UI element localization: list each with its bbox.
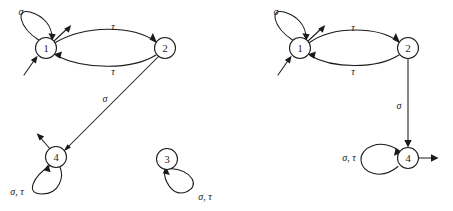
state-node-2-right[interactable]: 2 [398,38,419,59]
right-automaton: 1 2 4 σ τ τ σ σ, τ [274,6,439,175]
state-label: 2 [405,43,410,54]
edge-label-self-loop-state-1: σ [19,6,25,17]
transition-self-loop-state-4 [361,144,400,174]
transition-2-to-1 [56,55,156,66]
state-node-1-left[interactable]: 1 [36,38,57,59]
arrowhead-incoming-stub-state-1 [31,56,38,64]
arrowhead-outgoing-stub-state-1 [64,25,71,33]
edge-label-self-loop-state-4: σ, τ [10,186,24,197]
state-node-4-left[interactable]: 4 [46,147,67,168]
state-label: 3 [164,154,169,165]
state-label: 4 [53,152,59,163]
state-node-3-left[interactable]: 3 [157,149,178,170]
transition-self-loop-state-1 [21,11,52,40]
state-label: 4 [405,153,411,164]
state-label: 2 [162,43,167,54]
state-label: 1 [43,43,48,54]
state-node-1-right[interactable]: 1 [290,38,311,59]
arrowhead-2-to-4 [404,140,411,148]
diagram-canvas: 1 2 4 3 σ τ τ σ σ, τ σ, τ [0,0,453,211]
edge-label-1-to-2: τ [351,22,355,33]
edge-label-2-to-1: τ [351,66,355,77]
arrowhead-outgoing-stub-state-1 [318,25,325,33]
arrowhead-outgoing-stub-state-4 [37,133,45,140]
edge-label-1-to-2: τ [111,21,115,32]
edge-label-self-loop-state-4: σ, τ [342,152,356,163]
transition-self-loop-state-3 [164,169,193,193]
edge-label-2-to-1: τ [111,66,115,77]
state-node-2-left[interactable]: 2 [155,38,176,59]
state-node-4-right[interactable]: 4 [398,148,419,169]
state-label: 1 [297,43,302,54]
transition-1-to-2 [56,29,156,42]
transition-self-loop-state-1 [275,11,306,40]
automata-figure: 1 2 4 3 σ τ τ σ σ, τ σ, τ [0,0,453,211]
edge-label-2-to-4: σ [103,93,109,104]
edge-label-2-to-4: σ [397,100,403,111]
edge-label-self-loop-state-3: σ, τ [198,191,212,202]
arrowhead-outgoing-stub-state-4 [431,154,439,161]
left-automaton: 1 2 4 3 σ τ τ σ σ, τ σ, τ [10,6,212,202]
edge-label-self-loop-state-1: σ [274,6,280,17]
arrowhead-incoming-stub-state-1 [285,56,292,64]
transition-2-to-1 [310,55,399,66]
